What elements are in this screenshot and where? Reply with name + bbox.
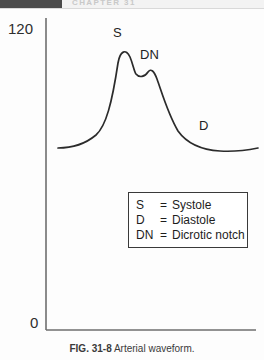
annotation-dicrotic-notch: DN bbox=[140, 47, 159, 62]
legend-term: Diastole bbox=[172, 213, 247, 228]
legend-symbol: S bbox=[136, 198, 160, 213]
legend-symbol: DN bbox=[136, 228, 160, 243]
figure-caption-number: FIG. 31-8 bbox=[69, 343, 111, 354]
legend-box: S = Systole D = Diastole DN = Dicrotic n… bbox=[128, 192, 248, 248]
legend-equals: = bbox=[160, 198, 172, 213]
legend-symbol: D bbox=[136, 213, 160, 228]
annotation-systole: S bbox=[113, 25, 122, 40]
header-dark-block bbox=[0, 0, 62, 8]
legend-term: Systole bbox=[172, 198, 247, 213]
legend-row: DN = Dicrotic notch bbox=[136, 228, 247, 243]
legend-term: Dicrotic notch bbox=[172, 228, 247, 243]
running-head: CHAPTER 31 bbox=[72, 0, 136, 7]
page-header-strip: CHAPTER 31 bbox=[0, 0, 264, 9]
waveform-trace bbox=[58, 52, 258, 151]
legend-row: D = Diastole bbox=[136, 213, 247, 228]
figure-caption-text: Arterial waveform. bbox=[114, 343, 195, 354]
legend-row: S = Systole bbox=[136, 198, 247, 213]
legend-equals: = bbox=[160, 213, 172, 228]
y-axis-min-label: 0 bbox=[30, 314, 38, 331]
figure-caption: FIG. 31-8 Arterial waveform. bbox=[0, 343, 264, 354]
figure-area: 120 0 S DN D S = Systole D = Diastole DN… bbox=[0, 9, 264, 339]
annotation-diastole: D bbox=[199, 118, 208, 133]
arterial-waveform-chart bbox=[0, 9, 264, 339]
y-axis-max-label: 120 bbox=[8, 20, 33, 37]
legend-equals: = bbox=[160, 228, 172, 243]
